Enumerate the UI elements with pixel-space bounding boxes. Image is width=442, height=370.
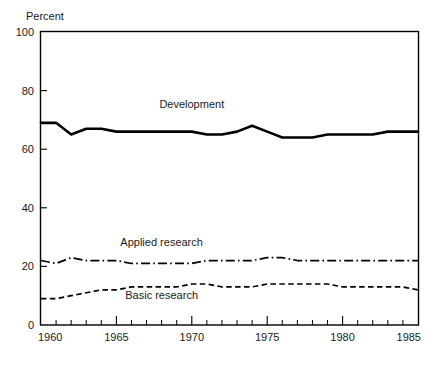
x-tick-label-1965: 1965	[104, 331, 128, 343]
y-tick-label-100: 100	[16, 26, 34, 38]
y-tick-label-60: 60	[22, 143, 34, 155]
y-tick-label-80: 80	[22, 85, 34, 97]
x-tick-label-1970: 1970	[180, 331, 204, 343]
series-lines	[41, 123, 418, 299]
y-tick-label-0: 0	[28, 319, 34, 331]
y-axis-ticks	[41, 91, 47, 267]
x-axis-minor-ticks	[56, 320, 403, 325]
plot-frame	[41, 32, 419, 326]
line-chart: Percent 020406080100 1960196519701975198…	[0, 0, 442, 370]
y-axis-title: Percent	[26, 10, 64, 22]
chart-figure: Percent 020406080100 1960196519701975198…	[0, 0, 442, 370]
x-tick-label-1975: 1975	[255, 331, 279, 343]
series-label-development: Development	[159, 98, 224, 110]
y-tick-label-40: 40	[22, 202, 34, 214]
x-axis-tick-labels: 196019651970197519801985	[38, 331, 421, 343]
series-label-applied-research: Applied research	[120, 236, 203, 248]
x-tick-label-1960: 1960	[38, 331, 62, 343]
x-tick-label-1985: 1985	[397, 331, 421, 343]
x-axis-major-ticks	[116, 316, 342, 325]
y-axis-tick-labels: 020406080100	[16, 26, 34, 331]
series-annotations: DevelopmentApplied researchBasic researc…	[120, 98, 224, 300]
series-line-development	[41, 123, 418, 138]
y-tick-label-20: 20	[22, 260, 34, 272]
x-tick-label-1980: 1980	[330, 331, 354, 343]
series-line-basic-research	[41, 284, 418, 299]
series-line-applied-research	[41, 258, 418, 264]
series-label-basic-research: Basic research	[125, 289, 198, 301]
